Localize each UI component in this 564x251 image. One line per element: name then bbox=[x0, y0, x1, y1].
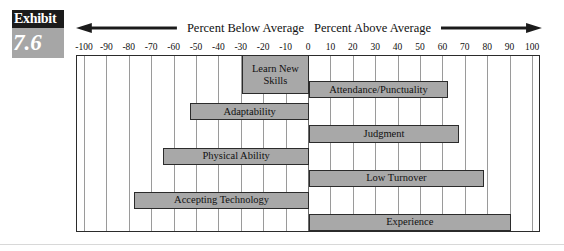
above-average-caption: Percent Above Average bbox=[314, 21, 431, 36]
x-tick-label: -70 bbox=[145, 40, 158, 54]
bar: Judgment bbox=[309, 125, 459, 142]
gridline bbox=[532, 56, 533, 231]
bar: Experience bbox=[309, 214, 511, 231]
gridline bbox=[129, 56, 130, 231]
x-tick-label: -50 bbox=[190, 40, 203, 54]
gridline bbox=[106, 56, 107, 231]
bar-label: Judgment bbox=[361, 128, 408, 140]
arrow-right-icon bbox=[441, 22, 542, 34]
bar: Adaptability bbox=[190, 103, 309, 120]
gridline bbox=[510, 56, 511, 231]
bar-label: Learn New Skills bbox=[249, 63, 302, 87]
bar: Accepting Technology bbox=[134, 192, 309, 209]
x-tick-label: -20 bbox=[257, 40, 270, 54]
bar: Physical Ability bbox=[163, 148, 309, 165]
x-tick-label: -30 bbox=[234, 40, 247, 54]
arrow-left-icon bbox=[76, 22, 177, 34]
x-tick-label: 40 bbox=[393, 40, 403, 54]
gridline bbox=[465, 56, 466, 231]
bar-label: Low Turnover bbox=[363, 172, 429, 184]
bar: Low Turnover bbox=[309, 170, 484, 187]
x-tick-label: -10 bbox=[279, 40, 292, 54]
above-average-header: Percent Above Average bbox=[314, 18, 542, 38]
x-tick-label: -90 bbox=[100, 40, 113, 54]
bar-label: Accepting Technology bbox=[171, 194, 272, 206]
x-tick-label: 10 bbox=[326, 40, 336, 54]
bar: Learn New Skills bbox=[242, 55, 309, 94]
x-tick-label: 30 bbox=[370, 40, 380, 54]
x-tick-label: 20 bbox=[348, 40, 358, 54]
exhibit-number-label: 7.6 bbox=[12, 28, 64, 58]
x-tick-label: 0 bbox=[306, 40, 311, 54]
chart-header: Percent Below Average Percent Above Aver… bbox=[76, 18, 542, 38]
x-tick-label: 60 bbox=[438, 40, 448, 54]
x-tick-label: 90 bbox=[505, 40, 515, 54]
x-tick-label: -80 bbox=[122, 40, 135, 54]
x-tick-label: -40 bbox=[212, 40, 225, 54]
bottom-divider bbox=[0, 244, 564, 245]
bar-label: Physical Ability bbox=[199, 150, 272, 162]
bar-label: Attendance/Punctuality bbox=[326, 84, 431, 96]
x-tick-label: 100 bbox=[525, 40, 539, 54]
x-tick-label: 50 bbox=[415, 40, 425, 54]
exhibit-badge: Exhibit 7.6 bbox=[12, 10, 64, 58]
gridline bbox=[487, 56, 488, 231]
exhibit-figure: Exhibit 7.6 Percent Below Average Percen… bbox=[0, 0, 564, 251]
gridline bbox=[84, 56, 85, 231]
x-tick-label: -100 bbox=[75, 40, 92, 54]
below-average-caption: Percent Below Average bbox=[187, 21, 304, 36]
bar: Attendance/Punctuality bbox=[309, 81, 448, 98]
x-tick-label: 80 bbox=[482, 40, 492, 54]
x-tick-label: 70 bbox=[460, 40, 470, 54]
plot-area: Learn New SkillsAttendance/PunctualityAd… bbox=[76, 55, 540, 232]
x-tick-label: -60 bbox=[167, 40, 180, 54]
bar-label: Experience bbox=[383, 216, 436, 228]
x-axis-tick-labels: -100-90-80-70-60-50-40-30-20-10010203040… bbox=[76, 40, 540, 54]
bar-label: Adaptability bbox=[220, 106, 279, 118]
below-average-header: Percent Below Average bbox=[76, 18, 304, 38]
exhibit-word-label: Exhibit bbox=[12, 10, 64, 28]
